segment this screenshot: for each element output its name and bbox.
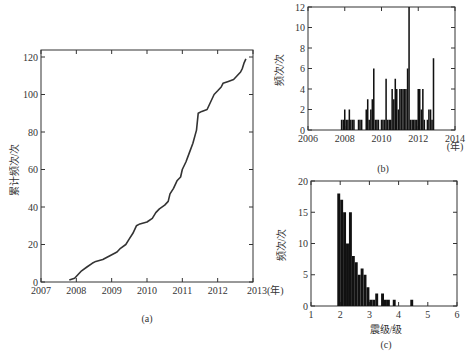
panel-caption: (c)	[380, 339, 391, 351]
histogram-bar	[344, 110, 346, 131]
histogram-bar	[375, 294, 378, 307]
histogram-bar	[390, 120, 392, 130]
y-axis-label: 累计频次/次	[8, 144, 20, 197]
plot-frame	[41, 50, 253, 282]
x-tick-label: 4	[396, 309, 401, 320]
y-axis-label: 频次/次	[273, 54, 285, 87]
histogram-bar	[369, 300, 372, 306]
histogram-bar	[388, 120, 390, 130]
histogram-bar	[381, 120, 383, 130]
histogram-bar	[414, 120, 416, 130]
x-tick-label: 2008	[335, 133, 355, 144]
histogram-bar	[433, 58, 435, 130]
x-tick-label: 2	[338, 309, 343, 320]
y-tick-label: 10	[295, 22, 305, 33]
histogram-bar	[427, 120, 429, 130]
y-tick-label: 15	[298, 207, 308, 218]
x-tick-label: 3	[367, 309, 372, 320]
y-tick-label: 12	[295, 2, 305, 13]
histogram-bar	[361, 120, 363, 130]
histogram-bar	[366, 287, 369, 306]
plot-frame	[311, 181, 457, 306]
histogram-bar	[395, 79, 397, 130]
histogram-bar	[410, 300, 413, 306]
histogram-bar	[382, 120, 384, 130]
histogram-bar	[358, 120, 360, 130]
cumulative-line	[69, 59, 246, 280]
histogram-bar	[352, 256, 355, 306]
histogram-bar	[343, 120, 345, 130]
histogram-bar	[417, 89, 419, 130]
histogram-bar	[384, 120, 386, 130]
x-tick-label: 2013(年)	[247, 284, 284, 297]
histogram-bar	[424, 120, 426, 130]
histogram-bar	[355, 262, 358, 306]
histogram-bar	[370, 110, 372, 131]
histogram-bar	[413, 120, 415, 130]
y-axis-label: 频次/次	[275, 229, 287, 262]
chart-c-magnitude-histogram: 12345605101520频次/次震级/级(c)	[275, 176, 460, 352]
histogram-bar	[411, 120, 413, 130]
x-tick-label: 2012	[408, 133, 428, 144]
histogram-bar	[399, 89, 401, 130]
histogram-bar	[365, 110, 367, 131]
x-tick-label: 2009	[102, 285, 122, 296]
y-tick-label: 60	[28, 164, 38, 175]
histogram-bar	[343, 212, 346, 306]
y-tick-label: 5	[303, 269, 308, 280]
histogram-bar	[393, 300, 396, 306]
y-tick-label: 8	[300, 43, 305, 54]
histogram-bar	[408, 7, 410, 130]
chart-b-frequency-over-time: 20062008201020122014024681012频次/次(年)(b)	[273, 2, 465, 176]
histogram-bar	[376, 120, 378, 130]
histogram-bar	[361, 269, 364, 307]
y-tick-label: 20	[298, 176, 308, 187]
histogram-bar	[396, 89, 398, 130]
histogram-bar	[337, 194, 340, 307]
histogram-bar	[419, 89, 421, 130]
histogram-bar	[375, 120, 377, 130]
histogram-bar	[350, 120, 352, 130]
x-tick-label: 2012	[208, 285, 228, 296]
histogram-bar	[404, 89, 406, 130]
histogram-bar	[405, 89, 407, 130]
x-axis-label: (年)	[447, 140, 464, 153]
histogram-bar	[346, 244, 349, 307]
histogram-bar	[372, 300, 375, 306]
x-tick-label: 2008	[66, 285, 86, 296]
y-tick-label: 40	[28, 202, 38, 213]
histogram-bar	[358, 275, 361, 306]
histogram-bar	[387, 120, 389, 130]
histogram-bar	[373, 69, 375, 131]
histogram-bar	[349, 212, 352, 306]
chart-a-cumulative-frequency: 2007200820092010201120122013(年)020406080…	[8, 50, 284, 325]
x-tick-label: 1	[309, 309, 314, 320]
histogram-bar	[341, 120, 343, 130]
x-tick-label: 2011	[173, 285, 193, 296]
histogram-bar	[367, 99, 369, 130]
histogram-bar	[422, 89, 424, 130]
y-tick-label: 0	[300, 125, 305, 136]
histogram-bar	[391, 89, 393, 130]
histogram-bar	[359, 120, 361, 130]
histogram-bar	[385, 79, 387, 130]
histogram-bar	[398, 110, 400, 131]
histogram-bar	[431, 120, 433, 130]
histogram-bar	[345, 120, 347, 130]
y-tick-label: 0	[303, 301, 308, 312]
histogram-bar	[421, 110, 423, 131]
y-tick-label: 10	[298, 238, 308, 249]
y-tick-label: 120	[23, 52, 38, 63]
histogram-bar	[410, 120, 412, 130]
panel-caption: (a)	[141, 313, 152, 325]
x-tick-label: 5	[425, 309, 430, 320]
y-tick-label: 4	[300, 84, 305, 95]
histogram-bar	[416, 120, 418, 130]
y-tick-label: 100	[23, 89, 38, 100]
histogram-bar	[347, 120, 349, 130]
histogram-bar	[430, 110, 432, 131]
histogram-bar	[401, 89, 403, 130]
histogram-bar	[384, 300, 387, 306]
histogram-bar	[364, 275, 367, 306]
y-tick-label: 2	[300, 104, 305, 115]
